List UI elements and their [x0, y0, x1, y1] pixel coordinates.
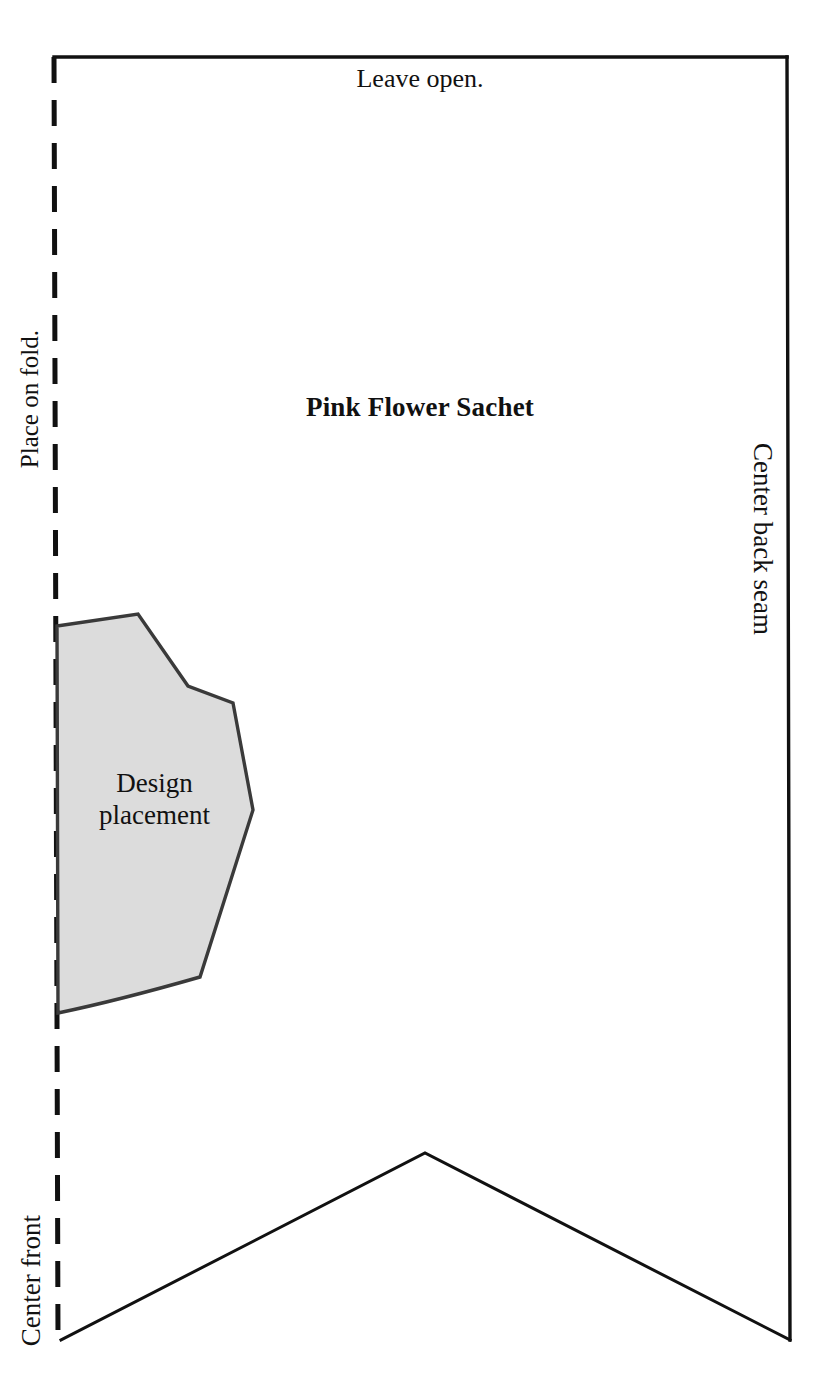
design-placement-label: Design placement: [72, 768, 237, 832]
pattern-drawing: [0, 0, 840, 1391]
center-back-seam-line: [787, 57, 790, 1340]
sewing-pattern-sheet: Leave open. Pink Flower Sachet Place on …: [0, 0, 840, 1391]
design-placement-label-line2: placement: [72, 800, 237, 832]
leave-open-label: Leave open.: [0, 64, 840, 94]
center-back-seam-label: Center back seam: [747, 443, 778, 635]
page-title: Pink Flower Sachet: [0, 392, 840, 423]
place-on-fold-label: Place on fold.: [16, 330, 44, 468]
design-placement-label-line1: Design: [72, 768, 237, 800]
center-front-label: Center front: [16, 1215, 47, 1346]
bottom-chevron-line: [61, 1153, 790, 1340]
